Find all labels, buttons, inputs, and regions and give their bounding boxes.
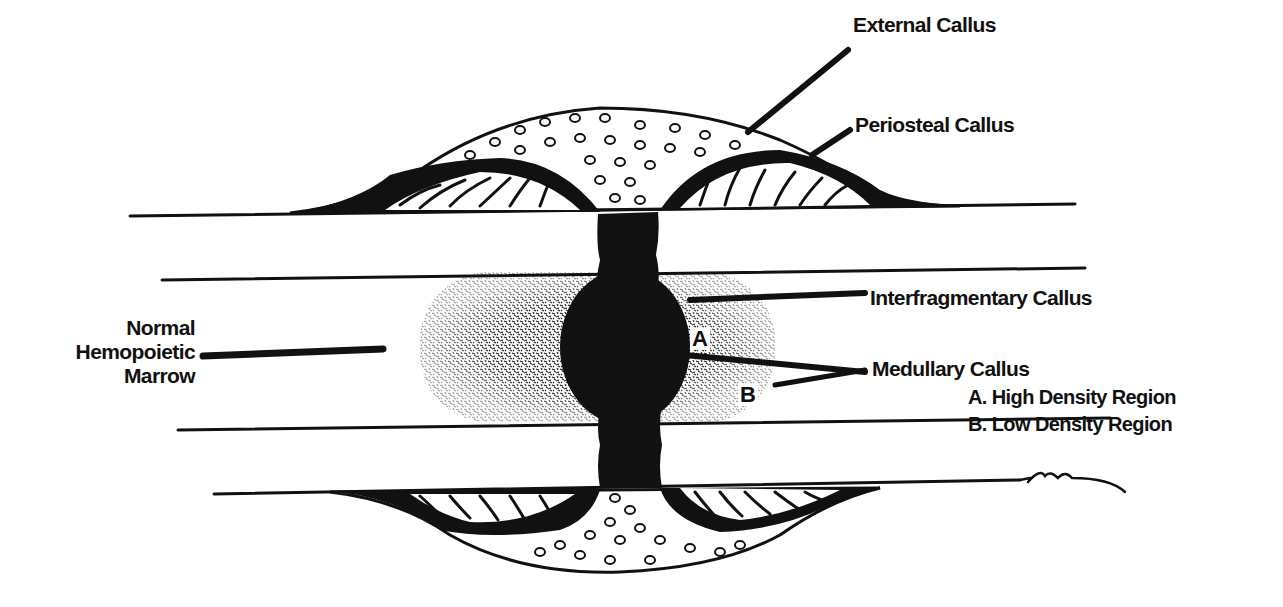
interfragmentary-callus — [560, 212, 690, 488]
high-density-region-label: A. High Density Region — [968, 386, 1176, 408]
marrow-label-line3: Marrow — [76, 364, 195, 388]
external-callus-label: External Callus — [853, 14, 996, 36]
medullary-callus-label: Medullary Callus — [872, 358, 1029, 380]
external-callus-bottom — [330, 488, 880, 572]
marrow-label-line1: Normal — [76, 316, 195, 340]
region-b-marker: B — [738, 384, 758, 406]
region-a-marker: A — [690, 328, 710, 350]
normal-hemopoietic-marrow-label: Normal Hemopoietic Marrow — [76, 316, 195, 388]
marrow-label-line2: Hemopoietic — [76, 340, 195, 364]
fracture-callus-diagram: External Callus Periosteal Callus Interf… — [0, 0, 1283, 607]
periosteal-callus-label: Periosteal Callus — [855, 114, 1014, 136]
interfragmentary-callus-label: Interfragmentary Callus — [870, 287, 1092, 309]
low-density-region-label: B. Low Density Region — [968, 413, 1172, 435]
